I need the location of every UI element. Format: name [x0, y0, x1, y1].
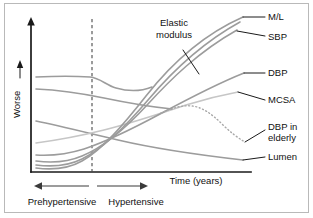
- leader-line-sbp: [237, 31, 265, 36]
- callout-elastic-modulus-line1: Elastic: [160, 17, 188, 28]
- series-label-mcsa: MCSA: [268, 94, 296, 105]
- series-label-dbp-in-elderly-line1: DBP in: [268, 121, 297, 132]
- range-bar-prehypertensive: [34, 182, 89, 190]
- curve-sbp: [36, 30, 237, 162]
- curve-plateau-upper: [36, 76, 152, 90]
- chart-svg: Worse Time (years) Elastic modulus M/L S…: [0, 0, 313, 218]
- leader-line-dbp-in-elderly: [245, 130, 265, 142]
- series-label-dbp: DBP: [268, 67, 288, 78]
- region-label-hypertensive: Hypertensive: [108, 196, 163, 207]
- figure-panel: Worse Time (years) Elastic modulus M/L S…: [0, 0, 313, 218]
- curve-mcsa: [36, 92, 238, 143]
- y-axis: [27, 17, 35, 172]
- y-axis-label-arrow-icon: [17, 60, 23, 78]
- region-label-prehypertensive: Prehypertensive: [28, 196, 97, 207]
- leader-line-mcsa: [238, 92, 265, 100]
- curve-dbp: [36, 73, 244, 155]
- series-label-dbp-in-elderly-line2: elderly: [268, 132, 296, 143]
- y-axis-label: Worse: [11, 91, 22, 118]
- range-bar-hypertensive: [97, 182, 148, 190]
- leader-line-lumen: [243, 157, 265, 160]
- curve-lumen: [36, 121, 243, 160]
- series-label-lumen: Lumen: [268, 151, 297, 162]
- callout-elastic-modulus-line2: modulus: [156, 29, 192, 40]
- x-axis-label: Time (years): [170, 175, 223, 186]
- curve-dbp-in-elderly: [161, 106, 245, 142]
- series-label-ml: M/L: [268, 11, 284, 22]
- series-label-sbp: SBP: [268, 31, 287, 42]
